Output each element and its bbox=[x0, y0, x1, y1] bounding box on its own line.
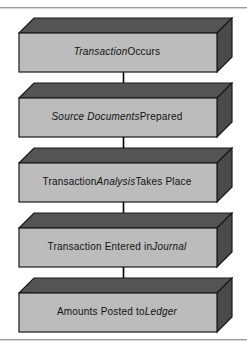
label-segment: Transaction bbox=[74, 46, 128, 58]
label-segment: Amounts Posted to bbox=[57, 306, 145, 318]
flow-node-label: Transaction Occurs bbox=[19, 33, 215, 71]
flow-node-label: Transaction Entered in Journal bbox=[19, 228, 215, 266]
flow-node-transaction-entered-in-journal[interactable]: Transaction Entered in Journal bbox=[19, 228, 215, 266]
label-segment: Transaction bbox=[42, 176, 96, 188]
label-segment: Source Documents bbox=[52, 111, 140, 123]
bottom-divider-rule-shadow bbox=[0, 340, 247, 341]
label-segment: Occurs bbox=[127, 46, 160, 58]
flow-node-amounts-posted-to-ledger[interactable]: Amounts Posted to Ledger bbox=[19, 293, 215, 331]
label-segment: Analysis bbox=[97, 176, 136, 188]
flow-node-transaction-analysis-takes-place[interactable]: Transaction Analysis Takes Place bbox=[19, 163, 215, 201]
label-segment: Prepared bbox=[140, 111, 183, 123]
label-segment: Journal bbox=[152, 241, 186, 253]
label-segment: Ledger bbox=[145, 306, 177, 318]
flow-node-source-documents-prepared[interactable]: Source Documents Prepared bbox=[19, 98, 215, 136]
flowchart-figure: Transaction Occurs Source Documents Prep… bbox=[0, 0, 247, 346]
top-divider-rule-shadow bbox=[0, 8, 247, 9]
label-segment: Takes Place bbox=[135, 176, 191, 188]
flow-node-label: Amounts Posted to Ledger bbox=[19, 293, 215, 331]
flow-node-transaction-occurs[interactable]: Transaction Occurs bbox=[19, 33, 215, 71]
flow-node-label: Transaction Analysis Takes Place bbox=[19, 163, 215, 201]
flow-node-label: Source Documents Prepared bbox=[19, 98, 215, 136]
label-segment: Transaction Entered in bbox=[48, 241, 153, 253]
